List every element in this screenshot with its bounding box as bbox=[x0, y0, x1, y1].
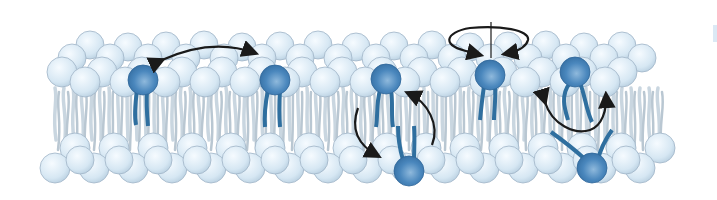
lipid-bilayer-diagram bbox=[0, 0, 717, 200]
edge-fragment bbox=[713, 25, 717, 42]
lower-heads-front bbox=[40, 146, 655, 183]
